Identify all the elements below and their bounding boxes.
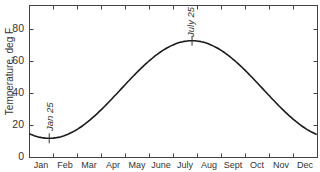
temperature-curve (30, 41, 317, 139)
y-tick-label-40: 40 (0, 86, 24, 98)
plot-area (0, 0, 320, 172)
x-tick-label-feb: Feb (53, 160, 77, 170)
x-tick-label-oct: Oct (245, 160, 269, 170)
x-tick-label-jan: Jan (29, 160, 53, 170)
x-tick-label-june: June (149, 160, 173, 170)
y-tick-label-20: 20 (0, 118, 24, 130)
annotation-july-25: July 25 (185, 7, 196, 37)
temperature-chart: Temperature, deg F 0 20 40 60 80 Jan Feb… (0, 0, 320, 172)
x-tick-label-sept: Sept (221, 160, 245, 170)
y-tick-label-60: 60 (0, 54, 24, 66)
x-axis-ticks (54, 6, 294, 158)
x-tick-label-mar: Mar (77, 160, 101, 170)
y-tick-label-80: 80 (0, 22, 24, 34)
annotation-jan-25: Jan 25 (44, 102, 55, 131)
x-tick-label-nov: Nov (269, 160, 293, 170)
plot-frame (30, 6, 318, 158)
x-tick-label-apr: Apr (101, 160, 125, 170)
x-tick-label-may: May (125, 160, 149, 170)
y-tick-label-0: 0 (0, 150, 24, 162)
x-tick-label-dec: Dec (293, 160, 317, 170)
x-tick-label-aug: Aug (197, 160, 221, 170)
x-tick-label-july: July (173, 160, 197, 170)
